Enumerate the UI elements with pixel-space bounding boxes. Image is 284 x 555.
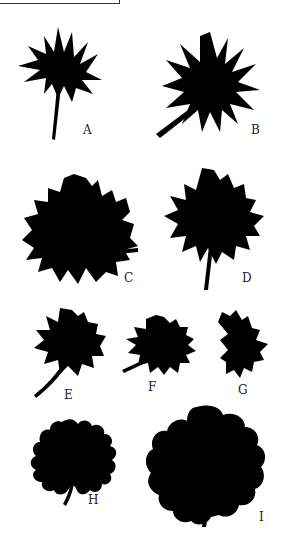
specimen-label-i: I [259,511,264,523]
leaf-silhouette-i-icon [0,0,284,555]
